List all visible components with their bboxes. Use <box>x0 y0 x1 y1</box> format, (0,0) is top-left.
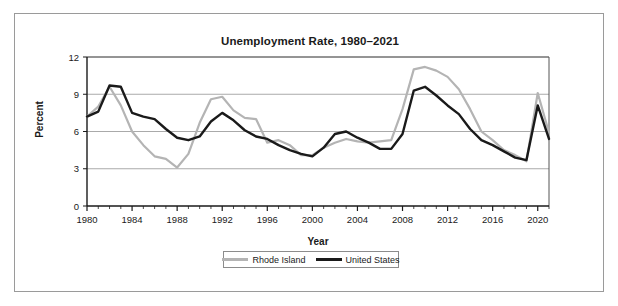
legend-item[interactable]: United States <box>316 255 400 265</box>
x-tick-label: 2016 <box>482 214 503 225</box>
x-tick-label: 2000 <box>302 214 323 225</box>
x-tick-label: 1992 <box>212 214 233 225</box>
legend-label: Rhode Island <box>252 255 305 265</box>
legend-label: United States <box>346 255 400 265</box>
y-tick-label: 0 <box>74 201 79 212</box>
x-tick-label: 1980 <box>76 214 97 225</box>
chart-legend: Rhode IslandUnited States <box>223 251 399 268</box>
y-tick-label: 12 <box>68 52 79 63</box>
x-tick-label: 2004 <box>347 214 368 225</box>
x-tick-label: 2008 <box>392 214 413 225</box>
y-tick-label: 9 <box>74 89 79 100</box>
plot-area: 0369121980198419881992199620002004200820… <box>15 14 605 254</box>
series-line-united-states <box>87 86 549 161</box>
y-tick-label: 3 <box>74 163 79 174</box>
x-tick-label: 2012 <box>437 214 458 225</box>
y-tick-label: 6 <box>74 126 79 137</box>
legend-swatch-rhode-island <box>222 258 248 261</box>
legend-item[interactable]: Rhode Island <box>222 255 305 265</box>
x-tick-label: 1988 <box>167 214 188 225</box>
x-tick-label: 2020 <box>527 214 548 225</box>
x-tick-label: 1984 <box>122 214 143 225</box>
chart-container: Unemployment Rate, 1980–2021 Percent Yea… <box>14 13 604 292</box>
legend-swatch-united-states <box>316 258 342 262</box>
x-tick-label: 1996 <box>257 214 278 225</box>
